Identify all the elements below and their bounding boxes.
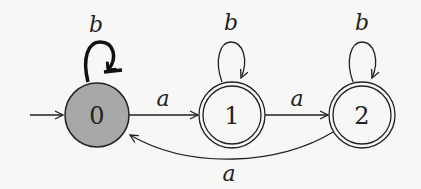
state-0-label: 0 bbox=[89, 102, 104, 130]
self-loop-0-arrowhead bbox=[104, 70, 122, 72]
state-1-label: 1 bbox=[224, 102, 239, 130]
automaton-diagram: 0 1 2 b a b a b a bbox=[0, 0, 421, 189]
transition-2-2-label: b bbox=[355, 10, 369, 35]
state-0: 0 bbox=[65, 83, 129, 147]
transition-0-0: b bbox=[86, 12, 122, 82]
transition-1-1: b bbox=[218, 10, 244, 82]
self-loop-1-edge bbox=[218, 42, 244, 82]
self-loop-2-edge bbox=[349, 42, 375, 82]
transition-2-0-label: a bbox=[222, 161, 235, 186]
self-loop-0-edge bbox=[86, 42, 114, 82]
transition-1-1-label: b bbox=[224, 10, 238, 35]
transition-1-2: a bbox=[265, 86, 328, 115]
transition-0-1: a bbox=[129, 86, 198, 115]
state-2: 2 bbox=[329, 82, 395, 148]
state-1: 1 bbox=[199, 82, 265, 148]
transition-0-1-label: a bbox=[156, 86, 169, 111]
transition-1-2-label: a bbox=[290, 86, 303, 111]
transition-2-2: b bbox=[349, 10, 375, 82]
transition-0-0-label: b bbox=[89, 12, 103, 37]
state-2-label: 2 bbox=[354, 102, 369, 130]
